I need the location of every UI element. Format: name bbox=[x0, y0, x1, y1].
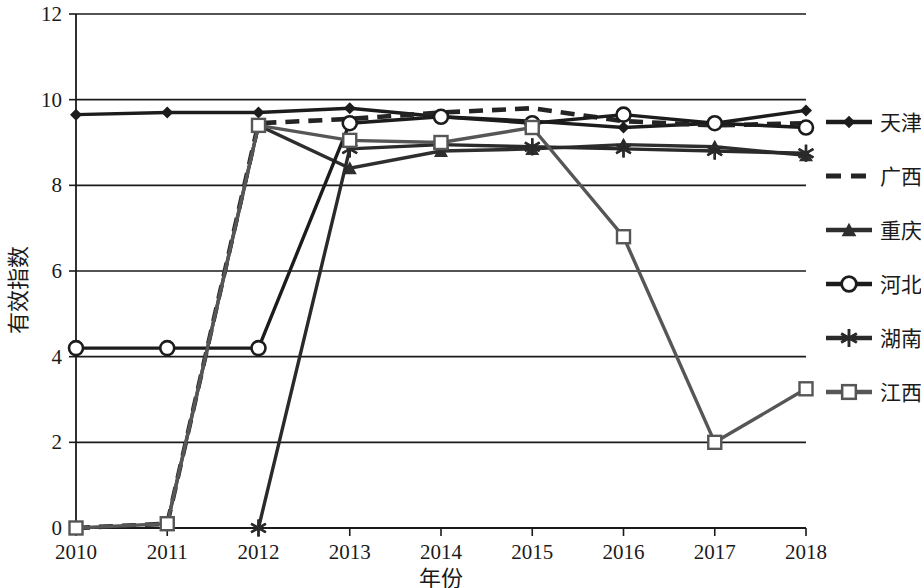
marker-square-open bbox=[800, 382, 813, 395]
x-tick-label-2015: 2015 bbox=[511, 540, 553, 564]
marker-circle-open bbox=[160, 341, 174, 355]
data-series-group bbox=[69, 102, 813, 536]
legend-label-湖南: 湖南 bbox=[880, 327, 921, 351]
marker-circle-open bbox=[842, 277, 857, 292]
line-chart-figure: 121086420 201020112012201320142015201620… bbox=[0, 0, 921, 588]
y-tick-labels-group: 121086420 bbox=[41, 2, 63, 540]
x-tick-label-2013: 2013 bbox=[329, 540, 371, 564]
marker-square-open bbox=[252, 119, 265, 132]
marker-circle-open bbox=[69, 341, 83, 355]
legend-item-湖南[interactable]: 湖南 bbox=[826, 327, 921, 351]
y-tick-label-4: 4 bbox=[52, 345, 63, 369]
marker-square-open bbox=[842, 385, 856, 399]
legend-item-天津[interactable]: 天津 bbox=[826, 111, 921, 135]
series-广西 bbox=[76, 108, 806, 528]
y-tick-label-10: 10 bbox=[41, 88, 62, 112]
y-tick-label-12: 12 bbox=[41, 2, 62, 26]
marker-circle-open bbox=[617, 108, 631, 122]
y-tick-label-8: 8 bbox=[52, 173, 63, 197]
marker-square-open bbox=[343, 134, 356, 147]
marker-circle-open bbox=[252, 341, 266, 355]
x-tick-label-2016: 2016 bbox=[603, 540, 645, 564]
marker-circle-open bbox=[799, 121, 813, 135]
marker-circle-open bbox=[434, 110, 448, 124]
legend-group: 天津广西重庆河北湖南江西 bbox=[826, 111, 921, 405]
legend-item-河北[interactable]: 河北 bbox=[826, 273, 921, 297]
tick-marks-group bbox=[69, 14, 806, 536]
y-tick-label-0: 0 bbox=[52, 516, 63, 540]
x-tick-label-2010: 2010 bbox=[55, 540, 97, 564]
x-tick-label-2018: 2018 bbox=[785, 540, 827, 564]
legend-label-重庆: 重庆 bbox=[880, 219, 921, 243]
y-tick-label-6: 6 bbox=[52, 259, 63, 283]
marker-circle-open bbox=[343, 116, 357, 130]
legend-label-天津: 天津 bbox=[880, 111, 921, 135]
x-tick-label-2011: 2011 bbox=[147, 540, 188, 564]
x-tick-label-2014: 2014 bbox=[420, 540, 463, 564]
marker-square-open bbox=[708, 436, 721, 449]
marker-diamond bbox=[70, 109, 82, 121]
marker-diamond bbox=[843, 116, 856, 129]
marker-square-open bbox=[617, 230, 630, 243]
chart-canvas: 121086420 201020112012201320142015201620… bbox=[0, 0, 921, 588]
legend-label-广西: 广西 bbox=[880, 165, 921, 189]
marker-diamond bbox=[253, 107, 265, 119]
marker-diamond bbox=[800, 104, 812, 116]
marker-square-open bbox=[161, 517, 174, 530]
marker-square-open bbox=[526, 121, 539, 134]
y-tick-label-2: 2 bbox=[52, 430, 63, 454]
series-line-湖南 bbox=[259, 145, 807, 528]
x-tick-label-2012: 2012 bbox=[238, 540, 280, 564]
series-湖南 bbox=[251, 136, 813, 536]
marker-diamond bbox=[344, 102, 356, 114]
legend-label-河北: 河北 bbox=[880, 273, 921, 297]
series-line-广西 bbox=[76, 108, 806, 528]
x-tick-label-2017: 2017 bbox=[694, 540, 736, 564]
legend-label-江西: 江西 bbox=[880, 381, 921, 405]
marker-diamond bbox=[161, 107, 173, 119]
marker-circle-open bbox=[708, 116, 722, 130]
y-axis-title: 有效指数 bbox=[6, 246, 31, 334]
marker-square-open bbox=[435, 136, 448, 149]
x-tick-labels-group: 201020112012201320142015201620172018 bbox=[55, 540, 827, 564]
series-重庆 bbox=[160, 118, 813, 529]
legend-item-重庆[interactable]: 重庆 bbox=[826, 219, 921, 243]
marker-diamond bbox=[618, 122, 630, 134]
marker-square-open bbox=[70, 522, 83, 535]
x-axis-title: 年份 bbox=[419, 566, 463, 588]
legend-item-江西[interactable]: 江西 bbox=[826, 381, 921, 405]
legend-item-广西[interactable]: 广西 bbox=[826, 165, 921, 189]
